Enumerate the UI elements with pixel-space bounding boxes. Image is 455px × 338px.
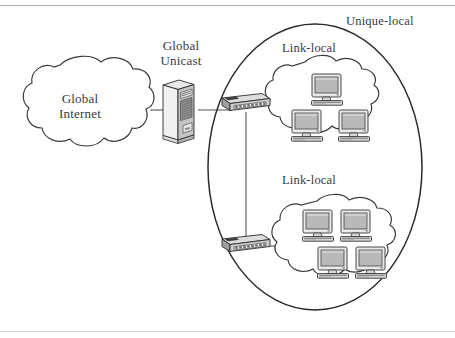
computer-bottom-cloud-3 <box>318 247 349 278</box>
label-unique-local: Unique-local <box>346 14 446 28</box>
computer-top-cloud-1 <box>312 74 343 105</box>
switch-bottom <box>222 235 270 252</box>
server-global-unicast <box>163 80 194 144</box>
label-link-local-bottom: Link-local <box>271 173 347 187</box>
diagram-canvas <box>0 0 455 338</box>
computer-top-cloud-2 <box>292 110 323 141</box>
network-diagram-figure: Global Internet Global Unicast Link-loca… <box>0 0 455 338</box>
label-global-internet: Global Internet <box>41 92 119 121</box>
computer-bottom-cloud-2 <box>341 210 372 241</box>
computer-bottom-cloud-4 <box>356 247 387 278</box>
label-link-local-top: Link-local <box>271 41 347 55</box>
computer-top-cloud-3 <box>339 110 370 141</box>
label-global-unicast: Global Unicast <box>141 39 221 68</box>
computer-bottom-cloud-1 <box>303 210 334 241</box>
switch-top <box>222 94 270 111</box>
